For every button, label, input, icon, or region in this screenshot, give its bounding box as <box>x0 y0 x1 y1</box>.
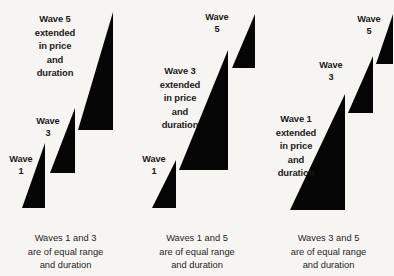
panel-wave5-extended: Wave 5 extended in price and duration Wa… <box>0 0 131 276</box>
panel-wave3-extended: Wave 5 Wave 3 extended in price and dura… <box>131 0 263 276</box>
wave-1-label: Wave 1 <box>136 154 172 177</box>
wave-5-label: Wave 5 <box>199 12 235 35</box>
wave5-extended-label: Wave 5 extended in price and duration <box>24 12 86 80</box>
panel-2-caption: Waves 1 and 5 are of equal range and dur… <box>131 232 263 272</box>
wave1-extended-label: Wave 1 extended in price and duration <box>265 112 327 180</box>
wave-5-label: Wave 5 <box>351 14 387 37</box>
wave3-extended-label: Wave 3 extended in price and duration <box>149 64 211 132</box>
wave-3-label: Wave 3 <box>30 116 66 139</box>
wave-5-triangle <box>232 14 255 68</box>
elliott-wave-diagram: Wave 5 extended in price and duration Wa… <box>0 0 394 276</box>
wave-1-label: Wave 1 <box>3 154 39 177</box>
panel-1-caption: Waves 1 and 3 are of equal range and dur… <box>0 232 131 272</box>
wave-3-triangle <box>348 56 373 113</box>
wave-3-label: Wave 3 <box>313 60 349 83</box>
panel-wave1-extended: Wave 5 Wave 3 Wave 1 extended in price a… <box>263 0 394 276</box>
panel-3-caption: Waves 3 and 5 are of equal range and dur… <box>263 232 394 272</box>
